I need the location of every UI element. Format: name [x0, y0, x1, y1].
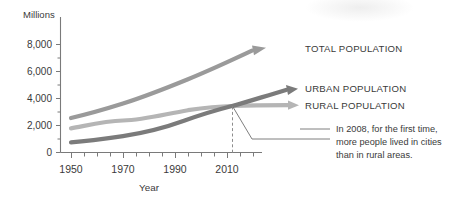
legend-label-rural: RURAL POPULATION — [305, 100, 405, 111]
annotation-line-3: than in rural areas. — [336, 150, 413, 160]
total-population-arrowhead — [252, 45, 266, 55]
x-tick-label: 1970 — [111, 163, 135, 175]
legend-label-total: TOTAL POPULATION — [305, 43, 402, 54]
x-tick-label: 1950 — [59, 163, 83, 175]
rural-population-arrowhead — [288, 101, 299, 110]
y-tick-label: 4,000 — [27, 93, 52, 104]
population-line-chart: Millions 8,000 6,000 4,000 2,000 0 1950 … — [0, 0, 467, 202]
y-tick-label: 0 — [46, 147, 52, 158]
y-tick-label: 2,000 — [27, 120, 52, 131]
chart-canvas: Millions 8,000 6,000 4,000 2,000 0 1950 … — [0, 0, 467, 202]
annotation-leader-line-lower — [233, 107, 330, 139]
legend-label-urban: URBAN POPULATION — [305, 83, 406, 94]
y-axis-ticks — [56, 45, 61, 153]
urban-population-arrowhead — [286, 85, 298, 95]
annotation-line-2: more people lived in cities — [336, 137, 442, 147]
y-tick-label: 8,000 — [27, 39, 52, 50]
y-tick-label: 6,000 — [27, 66, 52, 77]
x-axis-ticks — [72, 153, 254, 159]
urban-population-line — [71, 90, 286, 142]
y-axis-title: Millions — [23, 9, 55, 20]
x-tick-label: 2010 — [215, 163, 239, 175]
x-axis-title: Year — [139, 182, 160, 193]
x-tick-label: 1990 — [163, 163, 187, 175]
annotation-line-1: In 2008, for the first time, — [336, 124, 438, 134]
